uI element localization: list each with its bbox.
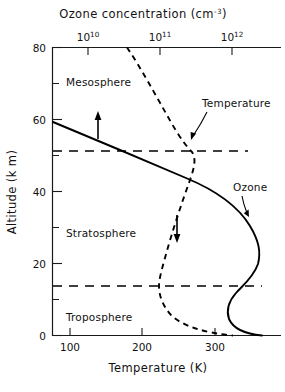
top-axis-title-main: Ozone concentration (cm	[59, 7, 214, 21]
top-axis-title-exponent: -3	[214, 7, 222, 16]
x-tick-label-300: 300	[205, 341, 225, 353]
y-tick-label-0: 0	[39, 330, 46, 342]
x-tick-label-100: 100	[60, 341, 80, 353]
region-label-troposphere: Troposphere	[65, 311, 132, 323]
region-label-mesosphere: Mesosphere	[66, 76, 131, 88]
ozone-temperature-altitude-figure: Ozone concentration (cm-3) 1010 1011 101…	[0, 0, 285, 392]
x-axis-title: Temperature (K)	[107, 361, 207, 375]
x-tick-label-200: 200	[132, 341, 152, 353]
annotation-label-ozone: Ozone	[233, 181, 267, 193]
top-axis-title: Ozone concentration (cm-3)	[59, 7, 227, 21]
y-tick-label-60: 60	[33, 114, 46, 126]
chart-svg: Ozone concentration (cm-3) 1010 1011 101…	[0, 0, 285, 392]
region-label-stratosphere: Stratosphere	[66, 227, 136, 239]
y-tick-label-20: 20	[33, 258, 46, 270]
top-axis-title-suffix: )	[222, 7, 227, 21]
y-axis-title: Altitude (k m)	[5, 150, 19, 235]
annotation-label-temperature: Temperature	[201, 97, 271, 109]
y-tick-label-80: 80	[33, 42, 46, 54]
y-tick-label-40: 40	[33, 186, 46, 198]
